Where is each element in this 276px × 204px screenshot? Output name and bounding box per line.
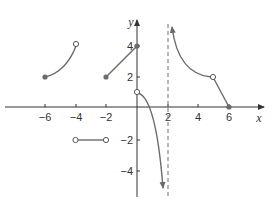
open-point: [210, 74, 215, 79]
closed-point: [103, 74, 108, 79]
closed-point: [134, 43, 139, 48]
piece-5-curve: [172, 27, 211, 77]
x-tick-label: −2: [100, 111, 113, 123]
piece-6-segment: [214, 79, 229, 107]
x-tick-label: 6: [226, 111, 232, 123]
open-point: [103, 137, 108, 142]
open-point: [73, 41, 78, 46]
closed-point: [226, 104, 231, 109]
x-axis-label: x: [255, 111, 262, 125]
x-tick-label: 4: [195, 111, 201, 123]
graph-canvas: −6 −4 −2 2 4 6 4 2 −2 −4 x y: [0, 0, 276, 204]
open-point: [134, 89, 139, 94]
closed-point: [42, 74, 47, 79]
x-tick-label: −6: [39, 111, 52, 123]
y-tick-label: −4: [120, 165, 133, 177]
piece-1-curve: [45, 46, 76, 77]
y-tick-label: −2: [120, 134, 133, 146]
y-axis-label: y: [127, 15, 134, 29]
y-tick-label: 2: [127, 71, 133, 83]
x-tick-label: −4: [70, 111, 83, 123]
open-point: [73, 137, 78, 142]
